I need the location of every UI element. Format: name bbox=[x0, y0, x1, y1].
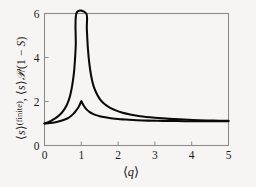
y-label-tail: ) bbox=[15, 36, 28, 40]
x-tick-label: 4 bbox=[189, 149, 195, 161]
y-tick-label: 2 bbox=[34, 96, 40, 108]
y-label-second-symbol: s bbox=[15, 85, 28, 90]
curve-divergent bbox=[45, 11, 229, 124]
y-axis-ticks bbox=[45, 14, 49, 146]
y-tick-label: 4 bbox=[34, 52, 40, 64]
x-tick-label: 0 bbox=[42, 149, 48, 161]
plot-canvas: 012345 0246 bbox=[0, 0, 256, 187]
y-label-first-open: ⟨ bbox=[15, 134, 28, 139]
y-label-first-symbol: s bbox=[15, 130, 28, 135]
x-label-close-bracket: ⟩ bbox=[134, 165, 139, 179]
y-axis-tick-labels: 0246 bbox=[34, 8, 40, 152]
x-axis-label: ⟨q⟩ bbox=[123, 164, 140, 180]
y-label-second-close: ⟩ bbox=[15, 80, 28, 85]
y-axis-label: ⟨s⟩(finite), ⟨s⟩𝒫/(1 − S) bbox=[14, 36, 28, 139]
x-tick-label: 5 bbox=[226, 149, 232, 161]
y-tick-label: 0 bbox=[34, 140, 40, 152]
y-label-superscript: (finite) bbox=[15, 101, 24, 125]
y-tick-label: 6 bbox=[34, 8, 40, 20]
y-label-separator: , bbox=[15, 95, 28, 101]
y-label-script-p: 𝒫 bbox=[14, 72, 28, 80]
x-axis-tick-labels: 012345 bbox=[42, 149, 232, 161]
data-curves bbox=[45, 11, 229, 124]
y-label-first-close: ⟩ bbox=[15, 125, 28, 130]
x-axis-ticks bbox=[45, 142, 229, 146]
figure-container: 012345 0246 ⟨q⟩ ⟨s⟩(finite), ⟨s⟩𝒫/(1 − S… bbox=[0, 0, 256, 187]
y-label-divider: /(1 − bbox=[15, 46, 28, 72]
x-tick-label: 1 bbox=[78, 149, 84, 161]
x-tick-label: 2 bbox=[115, 149, 121, 161]
y-label-capital-s: S bbox=[15, 40, 28, 46]
y-label-second-open: ⟨ bbox=[15, 90, 28, 95]
x-tick-label: 3 bbox=[152, 149, 158, 161]
